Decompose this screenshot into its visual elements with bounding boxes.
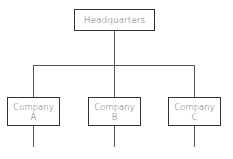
stub-b: [114, 125, 115, 147]
node-label-line2: A: [13, 112, 53, 122]
node-label-line2: C: [174, 112, 214, 122]
node-headquarters: Headquarters: [74, 9, 155, 31]
node-label-line1: Company: [94, 102, 134, 112]
node-label-line1: Company: [13, 102, 53, 112]
connector-root-down: [114, 31, 115, 65]
node-label-line1: Company: [174, 102, 214, 112]
node-label-line2: B: [94, 112, 134, 122]
connector-c-down: [194, 65, 195, 97]
stub-c: [194, 125, 195, 147]
connector-a-down: [33, 65, 34, 97]
node-company-c: Company C: [168, 97, 221, 126]
node-company-b: Company B: [88, 97, 141, 126]
connector-b-down: [114, 65, 115, 97]
node-company-a: Company A: [7, 97, 60, 126]
stub-a: [33, 125, 34, 147]
node-label: Headquarters: [84, 15, 146, 25]
